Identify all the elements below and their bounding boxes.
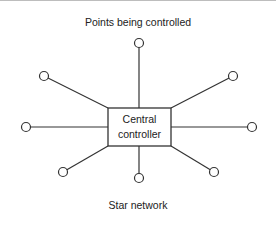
hub-label-line1: Central	[108, 112, 171, 127]
link-lower-right	[171, 146, 214, 172]
node-left-icon	[22, 123, 31, 132]
node-top-icon	[135, 39, 144, 48]
link-upper-left	[44, 76, 108, 108]
node-upper-right-icon	[229, 72, 238, 81]
node-right-icon	[248, 123, 257, 132]
diagram-caption: Star network	[0, 199, 276, 211]
central-controller-label: Central controller	[108, 112, 171, 142]
diagram-title: Points being controlled	[0, 16, 276, 28]
node-upper-left-icon	[40, 72, 49, 81]
node-lower-left-icon	[59, 168, 68, 177]
node-bottom-icon	[135, 174, 144, 183]
node-lower-right-icon	[210, 168, 219, 177]
link-upper-right	[171, 76, 233, 108]
hub-label-line2: controller	[108, 127, 171, 142]
link-lower-left	[63, 146, 108, 172]
